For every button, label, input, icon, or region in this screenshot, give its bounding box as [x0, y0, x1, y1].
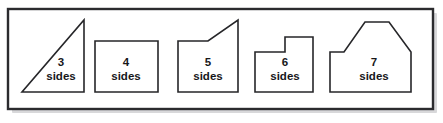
triangle-count-label: 3	[58, 56, 64, 68]
shape-rectangle-4-sides: 4 sides	[95, 41, 158, 92]
polygon-diagram-canvas: 3 sides 4 sides 5 sides 6 sides 7 sides	[0, 0, 443, 123]
heptagon-count-label: 7	[371, 56, 377, 68]
triangle-sides-label: sides	[46, 70, 75, 82]
hexagon-count-label: 6	[282, 56, 288, 68]
hexagon-sides-label: sides	[270, 70, 299, 82]
pentagon-sides-label: sides	[193, 70, 222, 82]
pentagon-count-label: 5	[205, 56, 212, 68]
polygon-figure: 3 sides 4 sides 5 sides 6 sides 7 sides	[0, 0, 443, 123]
heptagon-sides-label: sides	[359, 70, 388, 82]
rectangle-count-label: 4	[123, 56, 130, 68]
rectangle-sides-label: sides	[111, 70, 140, 82]
